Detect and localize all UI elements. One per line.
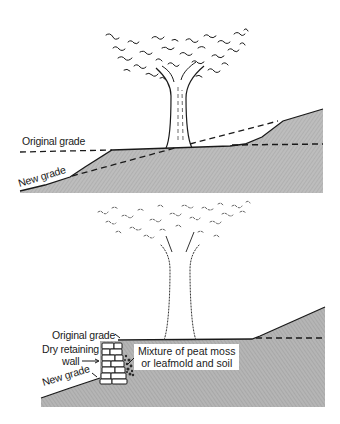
top-tree-canopy	[106, 29, 248, 79]
bottom-tree-trunk	[160, 244, 200, 340]
bottom-panel	[41, 201, 325, 407]
bottom-tree-canopy	[98, 201, 250, 238]
bottom-tree	[98, 201, 250, 340]
top-original-grade-label: Original grade	[22, 136, 85, 147]
original-grade-arrow	[115, 334, 120, 338]
retaining-wall-label-line1: Dry retaining	[42, 344, 99, 355]
mixture-callout: Mixture of peat moss or leafmold and soi…	[134, 344, 239, 370]
mixture-label-line1: Mixture of peat moss	[138, 345, 235, 357]
top-tree-trunk	[156, 66, 204, 148]
top-panel	[20, 29, 323, 193]
top-tree	[106, 29, 248, 148]
bottom-original-grade-label: Original grade	[52, 330, 115, 341]
new-grade-arrow	[92, 373, 97, 377]
top-original-grade-line-left	[20, 150, 112, 152]
mixture-label-line2: or leafmold and soil	[138, 357, 235, 369]
